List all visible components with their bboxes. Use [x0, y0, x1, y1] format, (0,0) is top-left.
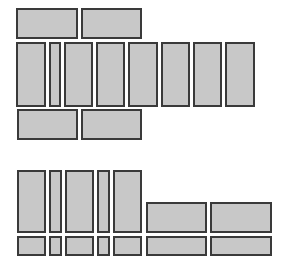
rectangle-block	[161, 42, 190, 107]
rectangle-block	[64, 42, 93, 107]
rectangle-block	[49, 42, 61, 107]
rectangle-block	[210, 202, 272, 233]
rectangle-block	[49, 236, 62, 256]
rectangle-block	[17, 170, 46, 233]
rectangle-block	[193, 42, 222, 107]
rectangle-block	[65, 236, 94, 256]
rectangle-block	[97, 170, 110, 233]
rectangle-block	[128, 42, 158, 107]
rectangle-block	[97, 236, 110, 256]
rectangle-block	[16, 42, 46, 107]
rectangle-block	[17, 236, 46, 256]
rectangle-block	[225, 42, 255, 107]
rectangle-block	[16, 8, 78, 39]
rectangle-block	[17, 109, 78, 140]
rectangle-block	[113, 236, 142, 256]
rectangle-block	[96, 42, 125, 107]
rectangle-block	[146, 202, 207, 233]
rectangle-block	[49, 170, 62, 233]
rectangle-block	[81, 109, 142, 140]
rectangle-block	[210, 236, 272, 256]
rectangle-block	[146, 236, 207, 256]
rectangle-block	[65, 170, 94, 233]
rectangle-block	[81, 8, 142, 39]
rectangle-block	[113, 170, 142, 233]
